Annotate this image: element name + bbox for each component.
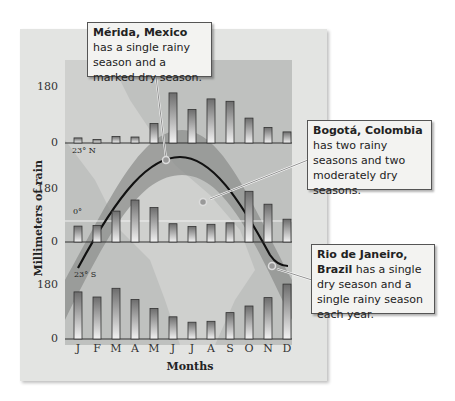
month-label: M: [145, 342, 164, 355]
bar: [188, 226, 196, 242]
callout-bogota-text: has two rainy seasons and two moderately…: [313, 139, 405, 197]
month-label: N: [259, 342, 278, 355]
month-label: F: [88, 342, 107, 355]
bar: [188, 109, 196, 143]
lat-equator: 0°: [73, 207, 82, 216]
callout-merida: Mérida, Mexico has a single rainy season…: [87, 22, 212, 77]
month-label: D: [278, 342, 297, 355]
bar: [74, 138, 82, 143]
marker-rio: [269, 263, 276, 270]
bar: [188, 322, 196, 339]
month-label: J: [164, 342, 183, 355]
bar: [245, 306, 253, 339]
bar: [169, 93, 177, 143]
ytick-0-top: 0: [28, 136, 58, 149]
bar: [283, 132, 291, 143]
bar: [264, 298, 272, 339]
bar: [207, 224, 215, 242]
ytick-0-bottom: 0: [28, 332, 58, 345]
bar: [169, 317, 177, 339]
marker-merida: [163, 157, 170, 164]
bar: [93, 139, 101, 143]
ytick-180-bottom: 180: [28, 278, 58, 291]
bar: [131, 299, 139, 339]
bar: [226, 313, 234, 339]
marker-bogota: [200, 199, 207, 206]
month-label: O: [240, 342, 259, 355]
bar: [150, 308, 158, 339]
bar: [264, 127, 272, 143]
bar: [112, 288, 120, 339]
bar: [112, 136, 120, 143]
bar: [245, 118, 253, 143]
chart-overlay: [0, 0, 455, 401]
bar: [207, 99, 215, 143]
callout-merida-text: has a single rainy season and a marked d…: [93, 41, 202, 84]
month-label: A: [126, 342, 145, 355]
ytick-180-top: 180: [28, 80, 58, 93]
lat-23n: 23° N: [72, 146, 96, 155]
bar: [74, 226, 82, 242]
callout-rio: Rio de Janeiro, Brazil has a single dry …: [311, 244, 435, 314]
month-label: J: [69, 342, 88, 355]
month-label: M: [107, 342, 126, 355]
lat-23s: 23° S: [74, 270, 96, 279]
callout-bogota: Bogotá, Colombia has two rainy seasons a…: [307, 120, 432, 190]
bar: [245, 191, 253, 242]
month-label: S: [221, 342, 240, 355]
bar: [150, 208, 158, 243]
x-axis-label: Months: [140, 360, 240, 373]
y-axis-label: Millimeters of rain: [32, 177, 45, 277]
bar: [226, 101, 234, 143]
bar: [150, 124, 158, 144]
bar: [93, 297, 101, 339]
bar: [93, 226, 101, 243]
bar: [207, 321, 215, 339]
bar: [264, 204, 272, 242]
bar: [169, 224, 177, 242]
bar: [131, 200, 139, 242]
bar: [283, 219, 291, 242]
bar: [226, 223, 234, 242]
bar: [283, 284, 291, 339]
bar: [74, 292, 82, 339]
bar: [112, 211, 120, 242]
callout-bogota-city: Bogotá, Colombia: [313, 124, 423, 137]
bar: [131, 137, 139, 143]
month-label: A: [202, 342, 221, 355]
month-label: J: [183, 342, 202, 355]
callout-merida-city: Mérida, Mexico: [93, 26, 187, 39]
